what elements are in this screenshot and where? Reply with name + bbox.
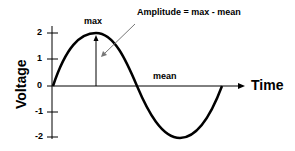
y-tick-1: 1 — [37, 53, 42, 63]
x-axis-arrowhead-icon — [238, 83, 245, 89]
y-tick-neg2: -2 — [35, 131, 43, 141]
y-tick-neg1: -1 — [35, 106, 43, 116]
amplitude-arrowhead-icon — [94, 35, 99, 41]
max-label: max — [84, 16, 102, 26]
y-tick-0: 0 — [37, 80, 42, 90]
amplitude-label: Amplitude = max - mean — [137, 7, 241, 17]
y-axis-label: Voltage — [13, 59, 29, 109]
sine-wave-diagram — [0, 0, 295, 151]
mean-label: mean — [153, 71, 177, 81]
y-tick-2: 2 — [37, 27, 42, 37]
x-axis-label: Time — [251, 77, 283, 93]
